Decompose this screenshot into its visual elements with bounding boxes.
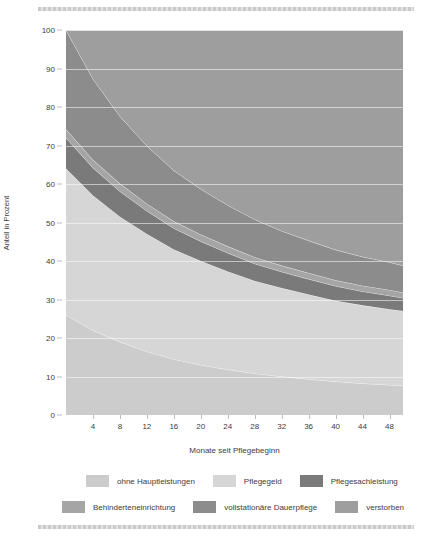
y-tick-mark (57, 145, 62, 146)
y-tick-mark (57, 222, 62, 223)
x-tick-mark (201, 415, 202, 419)
y-tick-label: 100 (42, 26, 55, 35)
area-layers (66, 30, 403, 415)
legend-label: verstorben (366, 503, 404, 512)
y-tick-mark (57, 338, 62, 339)
legend-row-1: ohne HauptleistungenPflegegeldPflegesach… (60, 468, 410, 494)
legend-item[interactable]: verstorben (335, 501, 404, 513)
y-tick-label: 80 (46, 103, 55, 112)
legend-item[interactable]: Behinderteneinrichtung (62, 501, 175, 513)
y-tick-label: 40 (46, 257, 55, 266)
x-tick-label: 44 (358, 422, 367, 431)
y-tick-label: 50 (46, 218, 55, 227)
legend-row-2: Behinderteneinrichtungvollstationäre Dau… (60, 494, 410, 520)
x-tick-label: 28 (250, 422, 259, 431)
legend-swatch (335, 501, 358, 513)
chart-legend: ohne HauptleistungenPflegegeldPflegesach… (60, 468, 410, 520)
y-tick-mark (57, 299, 62, 300)
x-tick-label: 40 (331, 422, 340, 431)
y-tick-mark (57, 261, 62, 262)
top-divider-rule (38, 7, 414, 11)
legend-item[interactable]: Pflegesachleistung (300, 475, 398, 487)
y-tick-mark (57, 30, 62, 31)
x-tick-label: 32 (277, 422, 286, 431)
x-tick-mark (120, 415, 121, 419)
legend-label: ohne Hauptleistungen (117, 477, 195, 486)
x-tick-mark (363, 415, 364, 419)
y-axis-label: Anteil in Prozent (2, 195, 11, 250)
x-tick-mark (255, 415, 256, 419)
x-tick-label: 48 (385, 422, 394, 431)
x-tick-label: 16 (169, 422, 178, 431)
area-svg (66, 30, 403, 415)
x-axis-label: Monate seit Pflegebeginn (66, 446, 403, 455)
y-tick-label: 10 (46, 372, 55, 381)
legend-label: Behinderteneinrichtung (93, 503, 175, 512)
x-tick-mark (228, 415, 229, 419)
legend-label: Pflegesachleistung (331, 477, 398, 486)
y-tick-mark (57, 184, 62, 185)
legend-swatch (62, 501, 85, 513)
y-tick-label: 70 (46, 141, 55, 150)
legend-label: vollstationäre Dauerpflege (224, 503, 317, 512)
y-axis-label-holder: Anteil in Prozent (28, 30, 29, 415)
x-tick-label: 12 (142, 422, 151, 431)
x-tick-mark (390, 415, 391, 419)
x-tick-mark (93, 415, 94, 419)
x-tick-label: 24 (223, 422, 232, 431)
legend-swatch (213, 475, 236, 487)
legend-item[interactable]: Pflegegeld (213, 475, 282, 487)
legend-item[interactable]: vollstationäre Dauerpflege (193, 501, 317, 513)
chart-page: 0102030405060708090100 Anteil in Prozent… (0, 0, 424, 536)
x-tick-label: 8 (118, 422, 122, 431)
bottom-divider-rule (38, 525, 414, 529)
x-tick-mark (309, 415, 310, 419)
stacked-area-plot (66, 30, 403, 415)
y-tick-mark (57, 68, 62, 69)
x-tick-label: 36 (304, 422, 313, 431)
x-tick-mark (336, 415, 337, 419)
y-tick-label: 20 (46, 334, 55, 343)
y-tick-mark (57, 376, 62, 377)
x-axis: 4812162024283236404448 (66, 415, 403, 445)
x-tick-mark (147, 415, 148, 419)
legend-swatch (193, 501, 216, 513)
y-tick-label: 0 (51, 411, 55, 420)
plot-area-wrapper: 0102030405060708090100 Anteil in Prozent… (0, 18, 424, 428)
y-tick-mark (57, 415, 62, 416)
legend-item[interactable]: ohne Hauptleistungen (86, 475, 195, 487)
y-tick-label: 30 (46, 295, 55, 304)
x-tick-label: 20 (196, 422, 205, 431)
legend-label: Pflegegeld (244, 477, 282, 486)
y-tick-label: 90 (46, 64, 55, 73)
x-tick-mark (174, 415, 175, 419)
y-tick-label: 60 (46, 180, 55, 189)
y-tick-mark (57, 107, 62, 108)
legend-swatch (300, 475, 323, 487)
legend-swatch (86, 475, 109, 487)
x-tick-label: 4 (91, 422, 95, 431)
x-tick-mark (282, 415, 283, 419)
